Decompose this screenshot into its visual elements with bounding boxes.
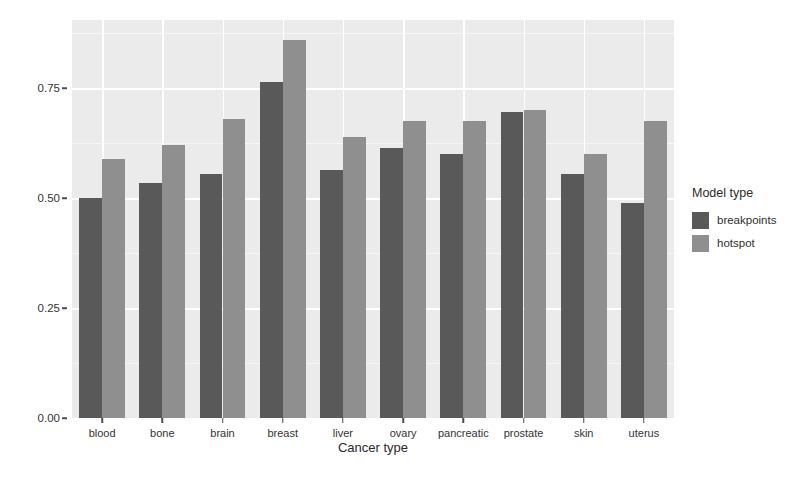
x-tick-label-liver: liver	[333, 427, 353, 439]
y-tick-mark	[62, 197, 67, 199]
bar-uterus-breakpoints	[621, 203, 644, 418]
x-tick-label-uterus: uterus	[629, 427, 660, 439]
x-tick-mark	[342, 418, 344, 423]
x-tick-label-blood: blood	[89, 427, 116, 439]
bar-bone-breakpoints	[139, 183, 162, 418]
x-tick-label-skin: skin	[574, 427, 594, 439]
bar-prostate-breakpoints	[501, 112, 524, 418]
y-tick-label: 0.75	[38, 82, 60, 94]
x-tick-label-bone: bone	[150, 427, 174, 439]
x-tick-label-brain: brain	[210, 427, 234, 439]
x-tick-mark	[101, 418, 103, 423]
legend-swatch-breakpoints	[692, 212, 709, 229]
bar-pancreatic-breakpoints	[440, 154, 463, 418]
x-tick-mark	[402, 418, 404, 423]
bar-ovary-hotspot	[403, 121, 426, 418]
legend-label-hotspot: hotspot	[717, 237, 755, 249]
x-tick-mark	[282, 418, 284, 423]
x-tick-label-prostate: prostate	[504, 427, 544, 439]
bar-breast-hotspot	[283, 40, 306, 418]
x-tick-mark	[583, 418, 585, 423]
y-axis: 0.000.250.500.75	[0, 0, 72, 485]
legend-item-hotspot[interactable]: hotspot	[692, 232, 787, 254]
x-tick-mark	[643, 418, 645, 423]
bar-skin-breakpoints	[561, 174, 584, 418]
bar-brain-hotspot	[223, 119, 246, 418]
y-tick-mark	[62, 87, 67, 89]
y-tick-mark	[62, 417, 67, 419]
bar-prostate-hotspot	[524, 110, 547, 418]
x-tick-label-pancreatic: pancreatic	[438, 427, 489, 439]
x-tick-mark	[463, 418, 465, 423]
y-tick-label: 0.50	[38, 192, 60, 204]
y-tick-mark	[62, 307, 67, 309]
legend-swatch-hotspot	[692, 235, 709, 252]
legend-item-breakpoints[interactable]: breakpoints	[692, 209, 787, 231]
y-tick-label: 0.00	[38, 412, 60, 424]
x-tick-mark	[222, 418, 224, 423]
x-tick-label-ovary: ovary	[390, 427, 417, 439]
legend-entries: breakpointshotspot	[692, 209, 787, 254]
x-axis-title: Cancer type	[72, 440, 674, 455]
x-tick-mark	[162, 418, 164, 423]
bar-skin-hotspot	[584, 154, 607, 418]
bar-pancreatic-hotspot	[463, 121, 486, 418]
bar-ovary-breakpoints	[380, 148, 403, 418]
bar-uterus-hotspot	[644, 121, 667, 418]
plot-panel	[72, 20, 674, 418]
bar-blood-hotspot	[102, 159, 125, 418]
bar-bone-hotspot	[162, 145, 185, 418]
bar-blood-breakpoints	[79, 198, 102, 418]
x-tick-label-breast: breast	[267, 427, 298, 439]
bar-breast-breakpoints	[260, 82, 283, 418]
bar-liver-hotspot	[343, 137, 366, 418]
bar-brain-breakpoints	[200, 174, 223, 418]
legend-title: Model type	[692, 186, 787, 200]
y-tick-label: 0.25	[38, 302, 60, 314]
x-tick-mark	[523, 418, 525, 423]
legend: Model type breakpointshotspot	[692, 186, 787, 255]
bars-group	[72, 20, 674, 418]
legend-label-breakpoints: breakpoints	[717, 214, 776, 226]
bar-chart-figure: Median test ROC AUC 0.000.250.500.75 blo…	[0, 0, 791, 485]
bar-liver-breakpoints	[320, 170, 343, 418]
